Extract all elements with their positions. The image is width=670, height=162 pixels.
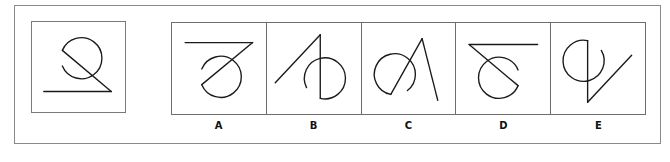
question-figure-box: [31, 21, 126, 113]
option-c-figure-icon: [362, 23, 456, 114]
answer-options: [171, 22, 646, 115]
option-d[interactable]: [456, 23, 551, 114]
option-b-figure-icon: [267, 23, 361, 114]
option-d-figure-icon: [456, 23, 550, 114]
option-a-label: A: [171, 120, 266, 131]
option-e-figure-icon: [551, 23, 645, 114]
option-c[interactable]: [362, 23, 457, 114]
option-e-label: E: [551, 120, 646, 131]
option-b[interactable]: [267, 23, 362, 114]
option-a[interactable]: [172, 23, 267, 114]
option-b-label: B: [266, 120, 361, 131]
option-e[interactable]: [551, 23, 645, 114]
option-c-label: C: [361, 120, 456, 131]
option-d-label: D: [456, 120, 551, 131]
option-a-figure-icon: [172, 23, 266, 114]
question-figure-icon: [32, 22, 125, 112]
